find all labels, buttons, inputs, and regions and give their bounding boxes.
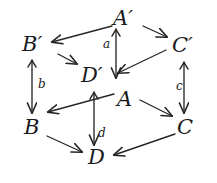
diagram-arrows-canvas (0, 0, 217, 183)
node-d-prime: D′ (81, 65, 103, 86)
commutative-diagram: A′ B′ C′ D′ A B C D a b c d (0, 0, 217, 183)
node-b: B (24, 117, 39, 138)
node-d: D (88, 147, 105, 168)
arrow-b-to-d (47, 136, 82, 152)
node-a: A (117, 89, 132, 110)
node-c-prime: C′ (172, 35, 193, 56)
arrow-label-a: a (103, 38, 110, 50)
arrow-label-d: d (98, 127, 106, 139)
arrow-bprime-to-dprime (58, 54, 77, 64)
arrow-c-to-d (114, 134, 175, 155)
arrow-a-to-b (48, 94, 114, 112)
arrow-label-c: c (176, 80, 183, 92)
arrow-a-to-c (140, 100, 172, 116)
arrow-aprime-to-cprime (143, 26, 167, 37)
node-c: C (177, 117, 193, 138)
arrow-cprime-to-dprime (118, 50, 166, 73)
node-a-prime: A′ (113, 8, 133, 29)
node-b-prime: B′ (22, 34, 42, 55)
arrow-label-b: b (38, 78, 46, 90)
